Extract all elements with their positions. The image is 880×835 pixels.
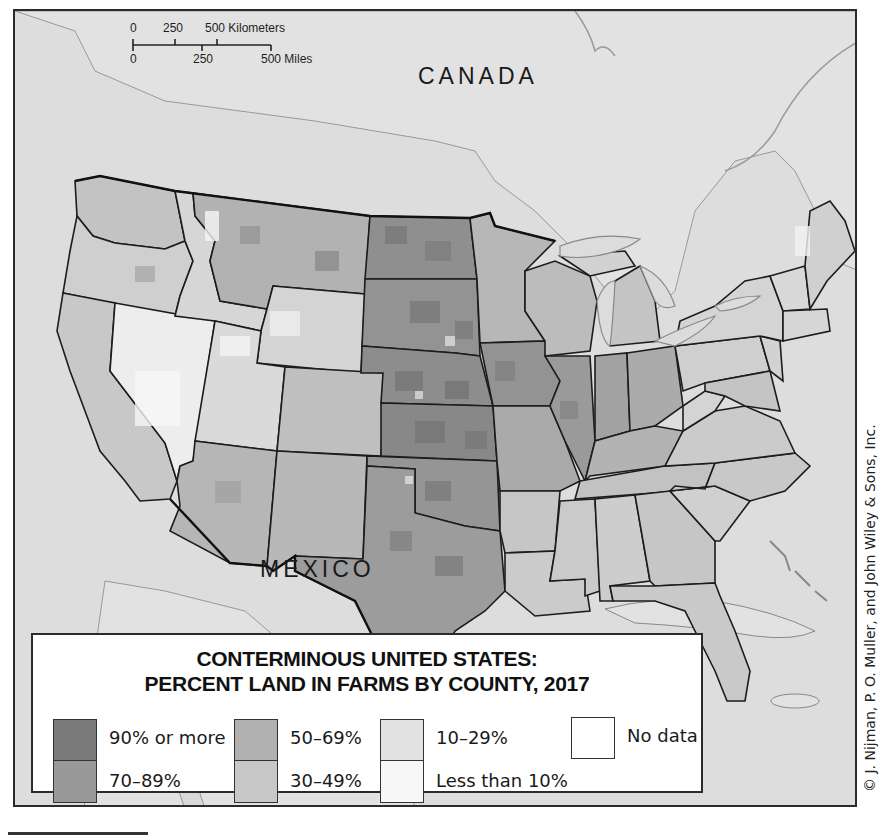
legend-label-90-plus: 90% or more <box>109 727 226 748</box>
map-frame: 0 250 500 Kilometers 0 250 500 Miles CAN… <box>13 9 857 807</box>
legend-title-line2: PERCENT LAND IN FARMS BY COUNTY, 2017 <box>33 672 701 696</box>
legend-label-30-49: 30–49% <box>290 770 362 791</box>
state-new-mexico <box>267 451 367 571</box>
legend-swatch-group-2 <box>234 719 278 803</box>
swatch-no-data <box>571 717 615 759</box>
scale-km-0: 0 <box>130 21 137 35</box>
swatch-less-than-10 <box>381 761 423 802</box>
state-arkansas <box>500 491 560 553</box>
label-mexico: MEXICO <box>260 556 375 583</box>
jamaica <box>771 694 819 708</box>
legend-label-10-29: 10–29% <box>436 727 508 748</box>
swatch-50-69 <box>235 720 277 761</box>
legend-box: CONTERMINOUS UNITED STATES: PERCENT LAND… <box>31 633 703 793</box>
legend-label-no-data: No data <box>627 725 698 746</box>
scale-mi-250: 250 <box>193 52 213 66</box>
scale-km-500: 500 Kilometers <box>205 21 285 35</box>
legend-swatch-group-1 <box>53 719 97 803</box>
swatch-10-29 <box>381 720 423 761</box>
state-north-dakota <box>365 216 477 279</box>
legend-title-line1: CONTERMINOUS UNITED STATES: <box>33 647 701 671</box>
label-canada: CANADA <box>418 63 538 90</box>
scale-mi-0: 0 <box>130 52 137 66</box>
copyright-credit: © J. Nijman, P. O. Muller, and John Wile… <box>862 424 878 792</box>
legend-label-50-69: 50–69% <box>290 727 362 748</box>
legend-label-less-than-10: Less than 10% <box>436 770 568 791</box>
legend-swatch-group-3 <box>380 719 424 803</box>
legend-label-70-89: 70–89% <box>109 770 181 791</box>
swatch-90-plus <box>54 720 96 761</box>
scale-bar: 0 250 500 Kilometers 0 250 500 Miles <box>130 21 340 81</box>
swatch-70-89 <box>54 761 96 802</box>
state-indiana <box>595 353 630 441</box>
state-colorado <box>277 367 385 456</box>
swatch-30-49 <box>235 761 277 802</box>
scale-km-250: 250 <box>163 21 183 35</box>
scale-mi-500: 500 Miles <box>261 52 312 66</box>
